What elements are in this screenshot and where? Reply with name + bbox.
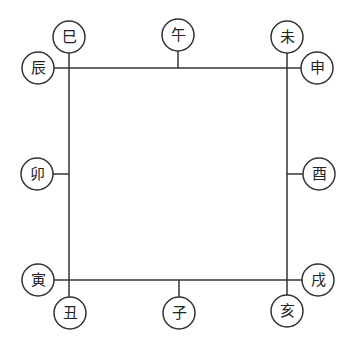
branch-node-shen: 申	[301, 52, 333, 84]
node-label: 寅	[31, 271, 46, 289]
node-label: 申	[310, 59, 325, 77]
branch-node-wei: 未	[271, 21, 303, 53]
node-label: 戌	[311, 271, 326, 289]
node-label: 酉	[312, 165, 327, 183]
branch-node-chen: 辰	[22, 52, 54, 84]
branch-node-mao: 卯	[21, 158, 53, 190]
branch-node-xu: 戌	[302, 264, 334, 296]
connector-lines	[53, 51, 303, 297]
branch-node-yin: 寅	[22, 264, 54, 296]
node-label: 辰	[31, 59, 46, 77]
node-label: 未	[280, 28, 295, 46]
node-label: 午	[171, 26, 186, 44]
branch-node-zi: 子	[163, 297, 195, 329]
node-label: 亥	[280, 302, 295, 320]
node-label: 子	[172, 304, 187, 322]
earthly-branches-diagram: 巳午未辰申卯酉寅戌丑子亥	[0, 0, 356, 351]
branch-node-wu: 午	[162, 19, 194, 51]
branch-node-hai: 亥	[271, 295, 303, 327]
node-label: 巳	[62, 28, 77, 46]
node-label: 丑	[63, 304, 78, 322]
branch-node-chou: 丑	[54, 297, 86, 329]
branch-node-si: 巳	[53, 21, 85, 53]
node-label: 卯	[30, 165, 45, 183]
branch-node-you: 酉	[303, 158, 335, 190]
